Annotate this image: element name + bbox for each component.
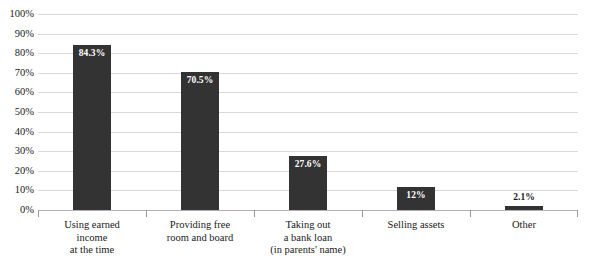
bar-slot: 70.5% bbox=[146, 14, 254, 210]
x-axis-category-line: Other bbox=[470, 219, 578, 232]
bar-using-earned-income[interactable]: 84.3% bbox=[73, 45, 111, 210]
plot-area: 84.3% 70.5% 27.6% 12% 2.1% bbox=[38, 14, 578, 210]
x-axis-tick bbox=[362, 210, 363, 217]
y-axis-tick-label: 10% bbox=[0, 185, 34, 196]
x-axis-category-line: Selling assets bbox=[362, 219, 470, 232]
bar-slot: 84.3% bbox=[38, 14, 146, 210]
y-axis-labels: 100% 90% 80% 70% 60% 50% 40% 30% 20% 10%… bbox=[0, 14, 34, 210]
bar-taking-out-a-bank-loan[interactable]: 27.6% bbox=[289, 156, 327, 210]
bar-series: 84.3% 70.5% 27.6% 12% 2.1% bbox=[38, 14, 578, 210]
x-axis-category-line: income bbox=[38, 232, 146, 245]
bar-slot: 12% bbox=[362, 14, 470, 210]
x-axis-category-label: Taking out a bank loan (in parents' name… bbox=[251, 219, 365, 257]
x-axis-category-line: a bank loan bbox=[251, 232, 365, 245]
x-axis-category-line: Providing free bbox=[146, 219, 254, 232]
x-axis-category-label: Other bbox=[470, 219, 578, 232]
bar-slot: 2.1% bbox=[470, 14, 578, 210]
y-axis-tick-label: 30% bbox=[0, 146, 34, 157]
bar-selling-assets[interactable]: 12% bbox=[397, 187, 435, 211]
x-axis-ticks bbox=[38, 210, 578, 217]
x-axis-labels: Using earned income at the time Providin… bbox=[38, 219, 578, 269]
x-axis-category-line: at the time bbox=[38, 244, 146, 257]
y-axis-tick-label: 50% bbox=[0, 107, 34, 118]
x-axis-category-label: Using earned income at the time bbox=[38, 219, 146, 257]
x-axis-category-label: Providing free room and board bbox=[146, 219, 254, 244]
y-axis-tick-label: 70% bbox=[0, 68, 34, 79]
x-axis-category-line: Taking out bbox=[251, 219, 365, 232]
bar-providing-free-room-and-board[interactable]: 70.5% bbox=[181, 72, 219, 210]
bar-value-label: 27.6% bbox=[289, 160, 327, 170]
y-axis-tick-label: 20% bbox=[0, 166, 34, 177]
x-axis-tick bbox=[146, 210, 147, 217]
y-axis-tick-label: 100% bbox=[0, 9, 34, 20]
y-axis-tick-label: 0% bbox=[0, 205, 34, 216]
bar-slot: 27.6% bbox=[254, 14, 362, 210]
x-axis-category-label: Selling assets bbox=[362, 219, 470, 232]
bar-chart: 100% 90% 80% 70% 60% 50% 40% 30% 20% 10%… bbox=[0, 0, 599, 269]
y-axis-tick-label: 80% bbox=[0, 48, 34, 59]
bar-value-label: 70.5% bbox=[181, 76, 219, 86]
y-axis-tick-label: 40% bbox=[0, 126, 34, 137]
x-axis-tick bbox=[577, 210, 578, 217]
bar-value-label: 2.1% bbox=[513, 193, 534, 203]
bar-value-label: 12% bbox=[397, 191, 435, 201]
x-axis-tick bbox=[38, 210, 39, 217]
bar-value-label: 84.3% bbox=[73, 49, 111, 59]
y-axis-tick-label: 90% bbox=[0, 28, 34, 39]
x-axis-category-line: Using earned bbox=[38, 219, 146, 232]
x-axis-category-line: (in parents' name) bbox=[251, 244, 365, 257]
x-axis-tick bbox=[470, 210, 471, 217]
y-axis-tick-label: 60% bbox=[0, 87, 34, 98]
x-axis-tick bbox=[254, 210, 255, 217]
x-axis-category-line: room and board bbox=[146, 232, 254, 245]
